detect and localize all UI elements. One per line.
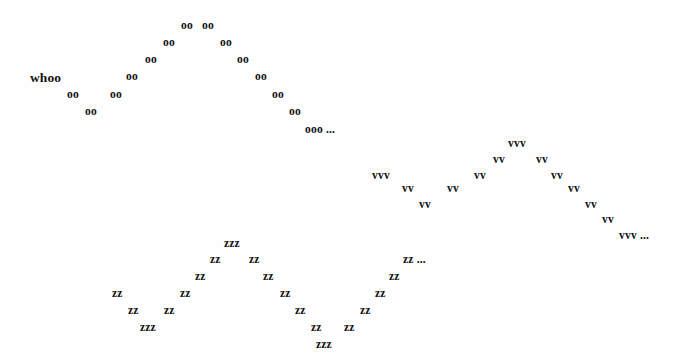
- zzz-wave-token: zz: [344, 322, 355, 334]
- zzz-wave-token: zzz: [224, 238, 240, 250]
- zzz-wave: zzzzzzzzzzzzzzzzzzzzzzzzzzzzzzzzzzzzzzzz…: [0, 0, 692, 360]
- zzz-wave-token: zz: [112, 288, 123, 300]
- zzz-wave-token: zz: [360, 305, 371, 317]
- zzz-wave-token: zz: [164, 305, 175, 317]
- zzz-wave-token: zz: [210, 254, 221, 266]
- zzz-wave-token: zz ...: [403, 254, 426, 266]
- zzz-wave-token: zzz: [316, 339, 332, 351]
- zzz-wave-token: zz: [180, 288, 191, 300]
- ascii-art-canvas: whooooooooooooooooooooooooooooooo ...vvv…: [0, 0, 692, 360]
- zzz-wave-token: zz: [295, 305, 306, 317]
- zzz-wave-token: zz: [249, 254, 260, 266]
- zzz-wave-token: zz: [311, 322, 322, 334]
- zzz-wave-token: zz: [263, 271, 274, 283]
- zzz-wave-token: zz: [389, 271, 400, 283]
- zzz-wave-token: zz: [128, 305, 139, 317]
- zzz-wave-token: zz: [280, 288, 291, 300]
- zzz-wave-token: zz: [375, 288, 386, 300]
- zzz-wave-token: zz: [195, 271, 206, 283]
- zzz-wave-token: zzz: [140, 322, 156, 334]
